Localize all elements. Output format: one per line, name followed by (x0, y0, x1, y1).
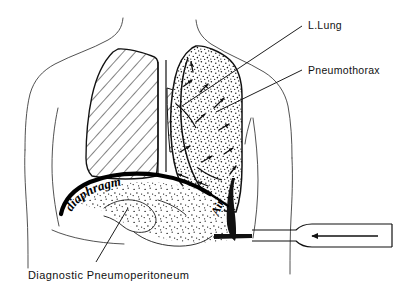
illustration-canvas: diaphragm Air L.Lung Pneumothorax Diagno… (0, 0, 399, 289)
label-l-lung: L.Lung (308, 19, 342, 31)
medical-illustration-figure: diaphragm Air L.Lung Pneumothorax Diagno… (0, 0, 399, 289)
label-pneumoperitoneum: Diagnostic Pneumoperitoneum (28, 269, 189, 281)
label-pneumothorax: Pneumothorax (308, 64, 380, 76)
